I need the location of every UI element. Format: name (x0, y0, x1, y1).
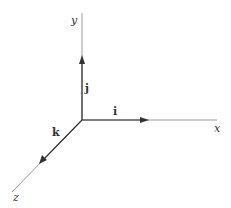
y-axis-label: y (71, 15, 77, 26)
x-axis-label: x (214, 123, 220, 134)
vector-i-label: i (113, 106, 117, 117)
arrowhead-j-icon (79, 55, 85, 64)
vector-k-label: k (52, 127, 60, 138)
vector-j-label: j (85, 83, 89, 94)
axes-diagram (0, 0, 231, 208)
vector-k (43, 120, 82, 160)
arrowhead-i-icon (140, 117, 149, 123)
z-axis-label: z (13, 192, 19, 203)
